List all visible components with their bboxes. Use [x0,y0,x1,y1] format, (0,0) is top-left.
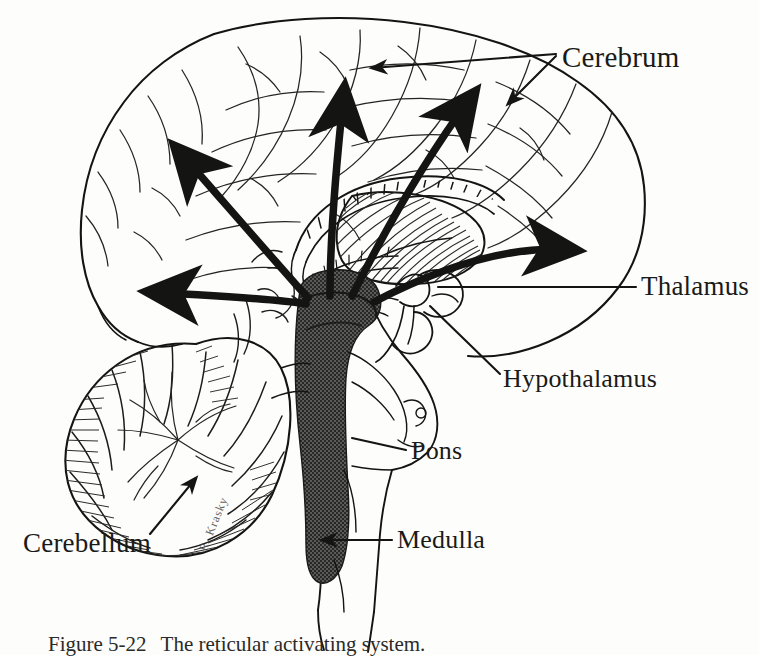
label-cerebrum: Cerebrum [562,41,680,74]
figure-caption: Figure 5-22The reticular activating syst… [48,632,425,657]
reticular-formation [295,270,381,584]
projection-arrow-upper-left [178,150,308,298]
projection-arrow-left [152,292,306,304]
figure-number: Figure 5-22 [48,632,147,656]
label-medulla: Medulla [397,525,485,555]
pons-detail [348,352,426,447]
label-hypothalamus: Hypothalamus [503,364,657,394]
leader-cerebellum [150,478,196,534]
leader-cerebrum-lower [508,56,556,104]
figure-caption-text: The reticular activating system. [161,632,426,656]
label-thalamus: Thalamus [641,271,749,302]
label-cerebellum: Cerebellum [23,528,151,559]
leader-hypothalamus [430,306,500,374]
cerebellum-structure [61,338,310,557]
label-pons: Pons [411,436,462,466]
cerebral-gyri [86,28,612,280]
